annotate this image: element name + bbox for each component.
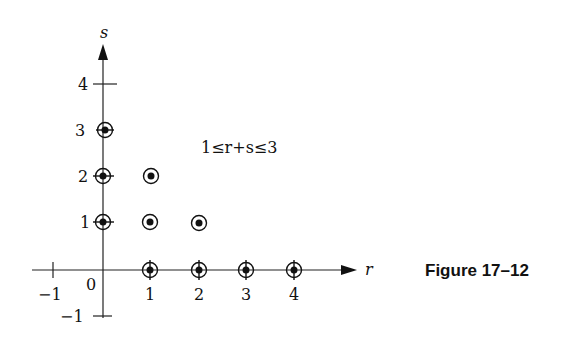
y-tick-label: 2 [78,167,88,186]
x-tick-label: 1 [145,285,155,304]
point-0-3 [96,123,114,138]
x-axis-label: r [365,260,374,279]
origin-label: 0 [86,275,96,294]
y-axis-label: s [100,23,108,42]
point-1-2 [144,169,159,184]
x-tick-label: 3 [241,285,251,304]
y-tick-label: −1 [60,307,84,326]
lattice-diagram: r s 0 −1 1 2 3 4 4 3 2 1 −1 1≤r+s≤3 Figu… [0,0,581,346]
point-1-1 [143,215,158,230]
point-2-1 [192,216,207,231]
figure-caption: Figure 17–12 [425,261,529,280]
region-label: 1≤r+s≤3 [201,138,277,157]
y-axis-arrow-icon [98,44,108,60]
y-tick-label: 1 [80,213,90,232]
x-tick-label: −1 [38,285,62,304]
y-tick-label: 4 [78,75,88,94]
x-tick-label: 2 [194,285,204,304]
y-tick-label: 3 [75,121,85,140]
x-tick-label: 4 [289,285,299,304]
x-axis-arrow-icon [341,265,357,275]
